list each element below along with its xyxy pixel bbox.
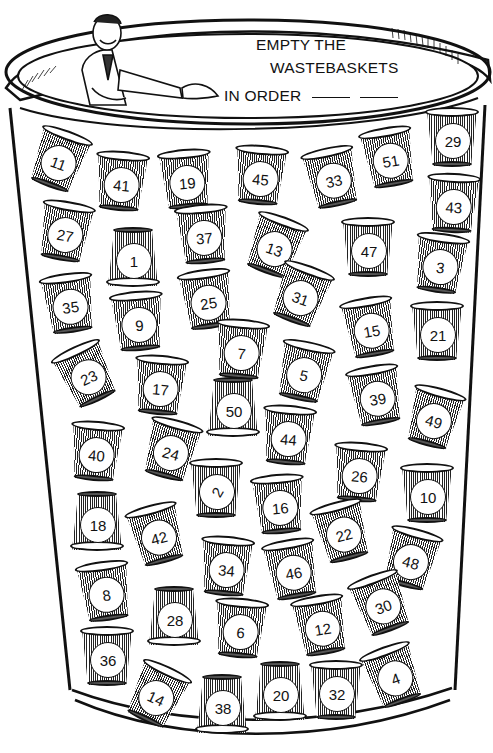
wastebasket-2[interactable]: 2: [187, 457, 245, 519]
wastebasket-37[interactable]: 37: [171, 201, 234, 268]
wastebasket-50[interactable]: 50: [204, 376, 262, 438]
cup-base: [77, 491, 117, 497]
cup-rim: [189, 458, 243, 468]
cup-rim: [309, 660, 363, 670]
cup-base: [417, 355, 457, 361]
cup-base: [87, 680, 127, 686]
cup-base: [213, 377, 253, 383]
wastebasket-20[interactable]: 20: [251, 660, 309, 722]
answer-blank-2[interactable]: [360, 96, 398, 98]
answer-blank-1[interactable]: [312, 96, 350, 98]
wastebasket-41[interactable]: 41: [89, 148, 152, 215]
cup-number: 20: [263, 677, 299, 713]
wastebasket-34[interactable]: 34: [194, 533, 257, 600]
cup-number: 29: [435, 123, 471, 159]
wastebasket-18[interactable]: 18: [68, 490, 126, 552]
cup-rim: [341, 217, 395, 227]
wastebasket-36[interactable]: 36: [78, 625, 136, 687]
wastebasket-45[interactable]: 45: [228, 142, 291, 209]
wastebasket-33[interactable]: 33: [297, 141, 367, 214]
cup-rim: [410, 301, 464, 311]
wastebasket-27[interactable]: 27: [31, 195, 99, 266]
wastebasket-15[interactable]: 15: [336, 291, 404, 362]
wastebasket-10[interactable]: 10: [398, 462, 456, 524]
cup-base: [348, 271, 388, 277]
wastebasket-51[interactable]: 51: [355, 121, 423, 192]
wastebasket-43[interactable]: 43: [422, 171, 483, 236]
wastebasket-16[interactable]: 16: [247, 471, 310, 538]
title-line-2: WASTEBASKETS: [270, 59, 398, 77]
wastebasket-17[interactable]: 17: [128, 352, 191, 419]
wastebasket-12[interactable]: 12: [287, 589, 355, 660]
cup-number: 18: [80, 507, 116, 543]
wastebasket-35[interactable]: 35: [36, 268, 102, 337]
wastebasket-28[interactable]: 28: [145, 585, 203, 647]
wastebasket-39[interactable]: 39: [342, 359, 410, 430]
cup-base: [196, 512, 236, 518]
wastebasket-40[interactable]: 40: [64, 418, 127, 485]
cup-number: 1: [116, 243, 152, 279]
cup-base: [432, 161, 472, 167]
cup-base: [407, 517, 447, 523]
cup-base: [316, 714, 356, 720]
cup-rim: [425, 107, 479, 117]
wastebasket-21[interactable]: 21: [408, 300, 466, 362]
cup-rim: [400, 463, 454, 473]
cup-base: [154, 586, 194, 592]
cup-number: 38: [205, 690, 241, 726]
wastebasket-38[interactable]: 38: [193, 673, 251, 735]
wastebasket-1[interactable]: 1: [104, 226, 162, 288]
cup-number: 36: [90, 642, 126, 678]
cup-number: 21: [420, 317, 456, 353]
cup-base: [260, 661, 300, 667]
cup-number: 32: [319, 676, 355, 712]
title-in-order: IN ORDER: [224, 87, 301, 104]
cup-base: [202, 674, 242, 680]
cup-number: 28: [157, 602, 193, 638]
wastebasket-32[interactable]: 32: [307, 659, 365, 721]
wastebasket-44[interactable]: 44: [256, 402, 319, 469]
wastebasket-3[interactable]: 3: [407, 228, 473, 297]
cup-number: 47: [351, 233, 387, 269]
title-line-1: EMPTY THE: [256, 36, 346, 54]
wastebasket-puzzle: EMPTY THE WASTEBASKETS IN ORDER 11411945…: [0, 0, 493, 753]
wastebasket-47[interactable]: 47: [339, 216, 397, 278]
wastebasket-29[interactable]: 29: [423, 106, 481, 168]
wastebasket-8[interactable]: 8: [72, 556, 138, 625]
wastebasket-9[interactable]: 9: [106, 288, 169, 355]
cup-base: [113, 227, 153, 233]
title-line-3: IN ORDER: [224, 87, 398, 105]
cup-rim: [80, 626, 134, 636]
cup-number: 10: [410, 479, 446, 515]
wastebasket-6[interactable]: 6: [208, 595, 271, 662]
wastebasket-7[interactable]: 7: [209, 316, 272, 383]
cup-number: 50: [216, 393, 252, 429]
